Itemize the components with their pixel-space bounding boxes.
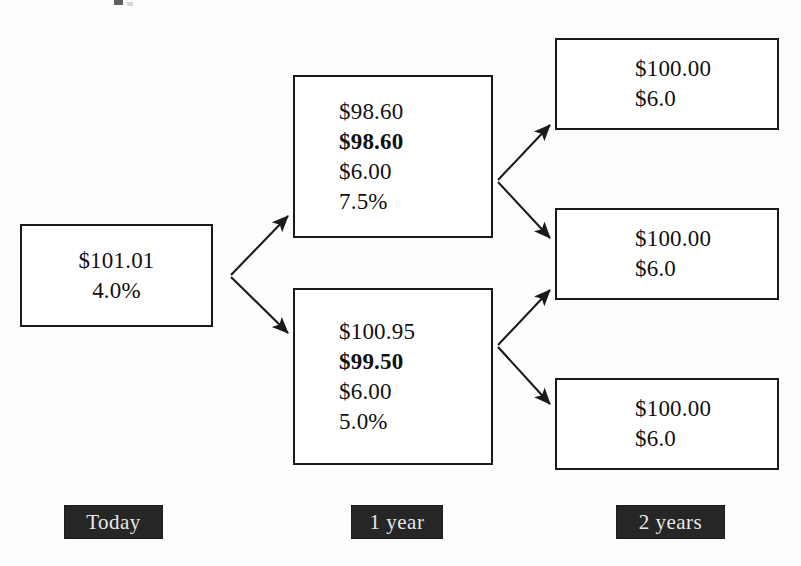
period-label-today: Today (65, 506, 162, 538)
node-uu-coupon: $6.0 (557, 84, 777, 114)
tree-node-down: $100.95 $99.50 $6.00 5.0% (293, 288, 493, 465)
node-ud-value: $100.00 (557, 224, 777, 254)
node-root-value: $101.01 (22, 246, 211, 276)
edge-down-to-ud (498, 290, 550, 345)
node-up-coupon: $6.00 (295, 157, 491, 187)
tree-node-up-down: $100.00 $6.0 (555, 208, 779, 300)
node-up-rate: 7.5% (295, 187, 491, 217)
node-down-value: $100.95 (295, 317, 491, 347)
node-down-coupon: $6.00 (295, 377, 491, 407)
tree-node-up: $98.60 $98.60 $6.00 7.5% (293, 75, 493, 238)
node-down-value-bold: $99.50 (295, 347, 491, 377)
node-dd-value: $100.00 (557, 394, 777, 424)
edge-up-to-uu (498, 125, 550, 180)
node-up-value: $98.60 (295, 97, 491, 127)
node-uu-value: $100.00 (557, 54, 777, 84)
node-down-rate: 5.0% (295, 407, 491, 437)
tree-node-up-up: $100.00 $6.0 (555, 38, 779, 130)
node-root-rate: 4.0% (22, 276, 211, 306)
node-dd-coupon: $6.0 (557, 424, 777, 454)
period-label-2-years: 2 years (617, 506, 724, 538)
tree-node-root: $101.01 4.0% (20, 224, 213, 327)
scan-artifact-icon (114, 0, 123, 5)
edge-down-to-dd (498, 347, 550, 404)
diagram-canvas: $101.01 4.0% $98.60 $98.60 $6.00 7.5% $1… (0, 0, 801, 566)
node-ud-coupon: $6.0 (557, 254, 777, 284)
edge-up-to-ud (498, 182, 550, 238)
edge-root-to-up (231, 216, 288, 275)
tree-node-down-down: $100.00 $6.0 (555, 378, 779, 470)
node-up-value-bold: $98.60 (295, 127, 491, 157)
edge-root-to-down (231, 277, 288, 333)
scan-artifact-secondary-icon (127, 2, 133, 6)
period-label-1-year: 1 year (352, 506, 442, 538)
